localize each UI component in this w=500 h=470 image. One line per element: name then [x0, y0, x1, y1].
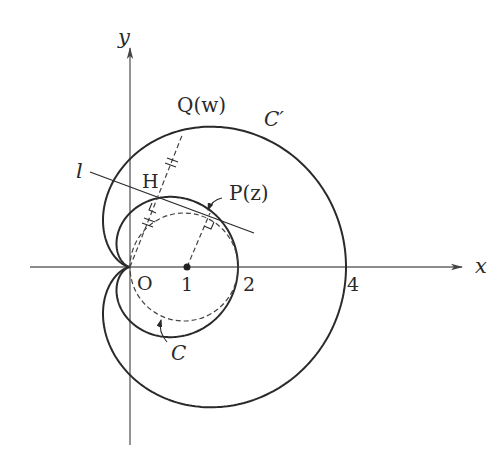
point-q-label: Q(w) — [177, 93, 226, 117]
line-l-label: l — [76, 159, 83, 183]
tick-label-4: 4 — [347, 273, 359, 295]
point-h-label: H — [142, 170, 159, 192]
right-angle-p — [204, 222, 214, 229]
x-axis-label: x — [475, 254, 487, 278]
origin-label: O — [137, 272, 153, 294]
circle-c-label: C — [171, 341, 186, 365]
complex-plane-diagram: y x O 1 2 4 Q(w) C′ l H P(z) C — [0, 0, 500, 470]
equal-marks-lower — [142, 218, 155, 227]
center-point — [184, 264, 191, 271]
curve-c-prime-label: C′ — [264, 107, 284, 131]
tick-label-2: 2 — [243, 273, 255, 295]
segment-center-p — [187, 213, 210, 267]
tick-label-1: 1 — [181, 273, 193, 295]
pointer-c — [160, 320, 167, 342]
y-axis-label: y — [117, 25, 131, 49]
point-p-label: P(z) — [229, 181, 269, 205]
pointer-p — [208, 198, 222, 210]
